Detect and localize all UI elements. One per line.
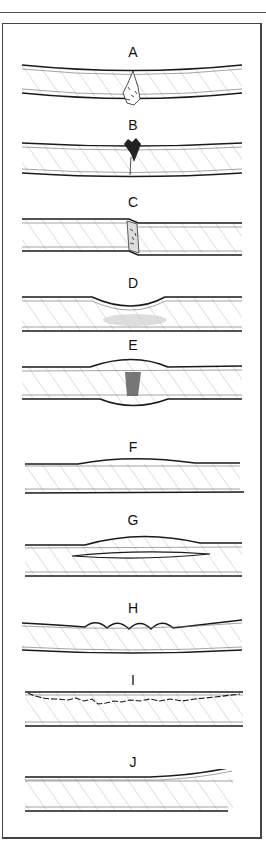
plate-peel-diagram bbox=[0, 769, 266, 819]
panel-label: E bbox=[0, 338, 266, 352]
panel-label: B bbox=[0, 118, 266, 132]
panel-label: J bbox=[0, 755, 266, 769]
panel-label: D bbox=[0, 276, 266, 290]
plate-subsurface-crack-diagram bbox=[0, 687, 266, 737]
panel-label: G bbox=[0, 513, 266, 527]
plate-wrinkle-diagram bbox=[0, 615, 266, 665]
plate-depression-diagram bbox=[0, 290, 266, 340]
plate-delamination-diagram bbox=[0, 527, 266, 577]
panel-label: F bbox=[0, 440, 266, 454]
plate-shear-diagram bbox=[0, 209, 266, 259]
plate-bulge-diagram bbox=[0, 352, 266, 412]
plate-crack-diagram bbox=[0, 59, 266, 119]
plate-crater-diagram bbox=[0, 132, 266, 182]
panel-label: I bbox=[0, 673, 266, 687]
panel-label: C bbox=[0, 195, 266, 209]
plate-swelling-diagram bbox=[0, 454, 266, 504]
top-rule bbox=[0, 12, 266, 13]
panel-label: H bbox=[0, 601, 266, 615]
panel-label: A bbox=[0, 45, 266, 59]
